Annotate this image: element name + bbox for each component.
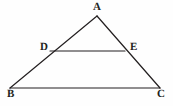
triangle-drawing [0,0,173,106]
segment-ac [97,16,160,88]
vertex-label-a: A [93,2,101,13]
vertex-label-c: C [157,89,165,100]
vertex-label-b: B [7,89,14,100]
vertex-label-e: E [130,42,137,53]
geometry-figure: A B C D E [0,0,173,106]
vertex-label-d: D [40,42,48,53]
segment-ab [10,16,97,88]
